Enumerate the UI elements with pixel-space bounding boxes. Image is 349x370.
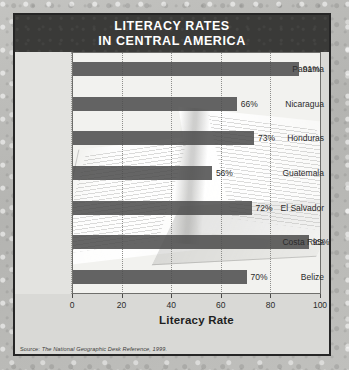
plot-border-top (72, 52, 321, 53)
x-tick-mark-0 (72, 294, 73, 298)
bar-value-panama: 91% (303, 64, 320, 74)
bar-honduras (73, 131, 254, 145)
source-text: The National Geographic Desk Reference, … (42, 346, 167, 352)
category-label-nicaragua: Nicaragua (285, 99, 324, 109)
x-tick-mark-80 (270, 294, 271, 298)
x-tick-mark-20 (122, 294, 123, 298)
bar-nicaragua (73, 97, 237, 111)
x-tick-label-20: 20 (117, 300, 126, 310)
x-tick-label-80: 80 (266, 300, 275, 310)
y-axis-line (72, 52, 73, 294)
x-tick-label-40: 40 (166, 300, 175, 310)
source-note: Source: The National Geographic Desk Ref… (20, 346, 167, 352)
bar-value-el-salvador: 72% (256, 203, 273, 213)
bar-value-costa-rica: 95% (313, 237, 330, 247)
x-tick-label-0: 0 (70, 300, 75, 310)
chart-title-line-2: IN CENTRAL AMERICA (98, 34, 246, 49)
x-axis-title: Literacy Rate (72, 314, 321, 326)
bar-belize (73, 270, 247, 284)
bar-guatemala (73, 166, 212, 180)
x-tick-mark-40 (171, 294, 172, 298)
bar-el-salvador (73, 201, 252, 215)
bar-panama (73, 62, 299, 76)
category-label-el-salvador: El Salvador (281, 203, 324, 213)
chart-title-banner: LITERACY RATES IN CENTRAL AMERICA (15, 15, 329, 52)
chart-frame: LITERACY RATES IN CENTRAL AMERICA Panama… (13, 13, 331, 356)
category-label-gutter (15, 52, 72, 294)
x-tick-mark-60 (221, 294, 222, 298)
chart-title-line-1: LITERACY RATES (114, 19, 230, 34)
bar-costa-rica (73, 235, 309, 249)
bar-value-nicaragua: 66% (241, 99, 258, 109)
gridline-80 (270, 52, 272, 294)
category-label-guatemala: Guatemala (282, 168, 324, 178)
chart-body: PanamaNicaraguaHondurasGuatemalaEl Salva… (15, 52, 329, 354)
category-label-belize: Belize (301, 272, 324, 282)
bar-value-belize: 70% (251, 272, 268, 282)
x-tick-mark-100 (320, 294, 321, 298)
source-prefix: Source: (20, 346, 40, 352)
category-label-honduras: Honduras (287, 133, 324, 143)
plot-border-bottom (72, 293, 321, 294)
x-tick-label-100: 100 (313, 300, 327, 310)
bar-value-guatemala: 56% (216, 168, 233, 178)
x-tick-label-60: 60 (216, 300, 225, 310)
bar-value-honduras: 73% (258, 133, 275, 143)
chart-page: LITERACY RATES IN CENTRAL AMERICA Panama… (0, 0, 349, 370)
